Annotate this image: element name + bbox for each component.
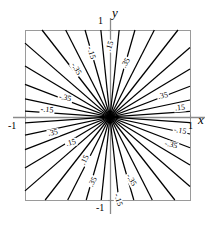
- plot-canvas: [0, 0, 219, 229]
- x-axis-label: x: [198, 113, 204, 126]
- x-tick-label-positive-one: 1: [188, 121, 193, 131]
- x-tick-label-negative-one: -1: [8, 121, 16, 131]
- contour-plot-figure: y x 1 -1 -1 1 .15.35-.15-.35.35.15-.15-.…: [0, 0, 219, 229]
- y-axis-label: y: [112, 6, 118, 19]
- contour-line: [25, 47, 190, 190]
- contour-value-label: .15: [174, 103, 187, 112]
- contour-value-label: -.15: [39, 105, 54, 114]
- y-tick-label-positive-one: 1: [98, 16, 103, 26]
- contour-lines: [25, 30, 190, 200]
- y-tick-label-negative-one: -1: [96, 203, 104, 213]
